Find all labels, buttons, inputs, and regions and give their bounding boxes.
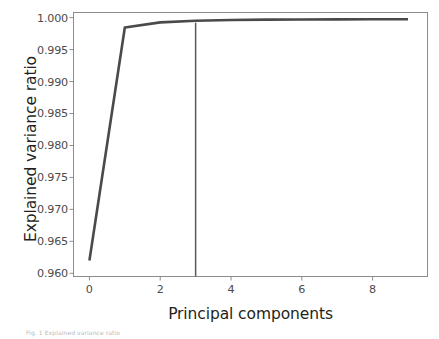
plot-frame <box>74 13 428 277</box>
variance-curve <box>89 19 408 260</box>
figure-explained-variance-ratio: 0.9600.9650.9700.9750.9800.9850.9900.995… <box>0 0 439 339</box>
x-tick-label: 4 <box>216 283 246 296</box>
x-tick-label: 2 <box>145 283 175 296</box>
x-tick-label: 8 <box>358 283 388 296</box>
x-tick-label: 6 <box>287 283 317 296</box>
tick-marks <box>70 18 373 281</box>
y-axis-label: Explained variance ratio <box>22 14 40 284</box>
figure-caption: Fig. 1 Explained variance ratio <box>26 329 256 338</box>
x-tick-label: 0 <box>74 283 104 296</box>
x-axis-label: Principal components <box>73 305 428 323</box>
x-axis-tick-labels: 02468 <box>0 283 439 307</box>
